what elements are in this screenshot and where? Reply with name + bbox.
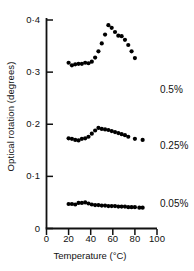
data-point — [90, 60, 94, 64]
data-point — [133, 205, 137, 209]
series-label-2: 0.05% — [160, 198, 188, 209]
series-label-1: 0.25% — [160, 140, 188, 151]
series-1-points — [67, 126, 145, 143]
data-point — [113, 30, 117, 34]
x-tick-label: 80 — [124, 234, 146, 244]
data-point — [129, 49, 133, 53]
data-point — [86, 135, 90, 139]
x-tick-label: 40 — [80, 234, 102, 244]
data-point — [96, 49, 100, 53]
data-point — [141, 206, 145, 210]
series-label-0: 0.5% — [160, 84, 183, 95]
data-point — [123, 38, 127, 42]
axis-lines — [46, 18, 157, 229]
data-point — [110, 26, 114, 30]
x-axis-tick-labels: 020406080100 — [0, 234, 194, 248]
series-2-points — [67, 200, 145, 209]
data-point — [141, 138, 145, 142]
data-point — [93, 128, 97, 132]
data-point — [120, 34, 124, 38]
data-point — [126, 43, 130, 47]
x-tick-label: 100 — [146, 234, 168, 244]
data-point — [93, 55, 97, 59]
x-tick-label: 60 — [102, 234, 124, 244]
data-point — [133, 137, 137, 141]
series-0-points — [67, 23, 137, 67]
chart-figure: Optical rotation (degrees) 00·10·20·30·4… — [0, 0, 194, 271]
data-point — [133, 56, 137, 60]
data-point — [67, 61, 71, 65]
data-points — [67, 23, 145, 210]
data-point — [100, 41, 104, 45]
x-tick-label: 20 — [58, 234, 80, 244]
data-point — [90, 132, 94, 136]
x-axis-label: Temperature (°C) — [20, 250, 160, 261]
data-point — [103, 32, 107, 36]
data-point — [126, 135, 130, 139]
x-tick-label: 0 — [36, 234, 58, 244]
plot-area — [0, 0, 194, 271]
data-point — [106, 23, 110, 27]
